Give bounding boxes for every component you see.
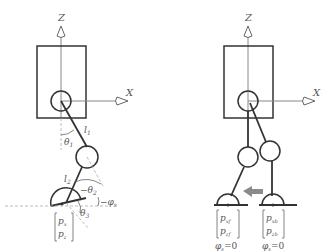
z-axis-arrow-icon — [244, 26, 252, 38]
front-foot-shape — [217, 194, 239, 205]
foot-px: px — [58, 216, 67, 227]
back-foot-shape — [262, 194, 284, 205]
z-axis-label: Z — [244, 12, 253, 23]
x-axis-label: X — [125, 87, 134, 98]
front-foot-phi: φs=0 — [215, 241, 237, 252]
front-foot-pz: pzf — [220, 226, 231, 238]
foot-position-vector: px pz — [55, 213, 73, 241]
z-axis-arrow-icon — [57, 26, 65, 38]
back-foot-px: pxb — [266, 213, 278, 224]
back-foot-pz: pzb — [266, 226, 278, 237]
front-foot-px: pxf — [220, 213, 232, 225]
back-knee-joint — [260, 141, 280, 161]
left-figure: Z X l1 θ1 l2 −θ2 θ3 — [5, 12, 134, 241]
foot-contact-point — [61, 203, 64, 206]
theta1-arc — [61, 130, 74, 135]
back-foot-phi: φs=0 — [262, 241, 284, 252]
theta3-label: θ3 — [80, 208, 89, 219]
foot-pz: pz — [58, 229, 67, 240]
phi-label: −φs — [100, 197, 117, 208]
x-axis-label: X — [312, 87, 321, 98]
back-foot-position-vector: pxb pzb — [263, 210, 284, 238]
l1-label: l1 — [84, 125, 91, 136]
back-link-1 — [250, 103, 266, 142]
z-axis-label: Z — [57, 12, 66, 23]
front-link-2 — [231, 167, 244, 196]
arrow-left-icon — [243, 186, 263, 197]
l2-label: l2 — [64, 174, 71, 185]
leg-kinematics-diagram: Z X l1 θ1 l2 −θ2 θ3 — [0, 0, 332, 252]
front-foot-contact-point — [227, 204, 230, 207]
theta1-label: θ1 — [64, 137, 73, 148]
right-figure: Z X pxf pzf φs=0 pxb — [214, 12, 321, 252]
theta2-arc — [75, 179, 101, 184]
front-knee-joint — [238, 147, 258, 167]
back-foot-contact-point — [272, 204, 275, 207]
phi-arc — [98, 197, 99, 206]
x-axis-arrow-icon — [116, 97, 129, 105]
link1-extension — [87, 157, 104, 188]
front-foot-position-vector: pxf pzf — [217, 210, 239, 238]
x-axis-arrow-icon — [303, 97, 316, 105]
theta2-label: −θ2 — [80, 185, 97, 196]
